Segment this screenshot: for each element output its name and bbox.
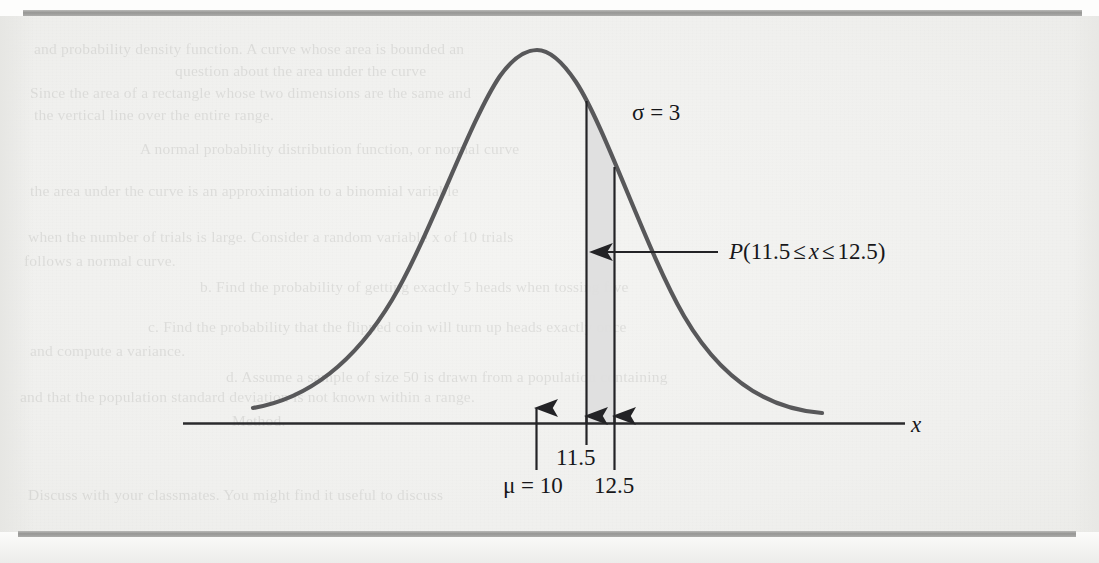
sigma-label: σ = 3 [632,101,680,124]
upper-bound-tick-label: 12.5 [594,474,634,497]
probability-upper-bound: 12.5 [838,239,878,264]
probability-open-paren: ( [743,239,751,264]
normal-distribution-curve [253,50,822,413]
lower-bound-tick-label: 11.5 [556,446,595,469]
probability-label: P(11.5≤x≤12.5) [729,240,886,263]
probability-lower-bound: 11.5 [751,239,790,264]
figure-page: and probability density function. A curv… [0,0,1099,563]
probability-variable: x [809,239,819,264]
probability-close-paren: ) [878,239,886,264]
probability-relation-1: ≤ [790,239,809,264]
mean-label: μ = 10 [503,474,563,497]
x-axis-label: x [911,413,921,436]
probability-function: P [729,239,743,264]
probability-relation-2: ≤ [819,239,838,264]
